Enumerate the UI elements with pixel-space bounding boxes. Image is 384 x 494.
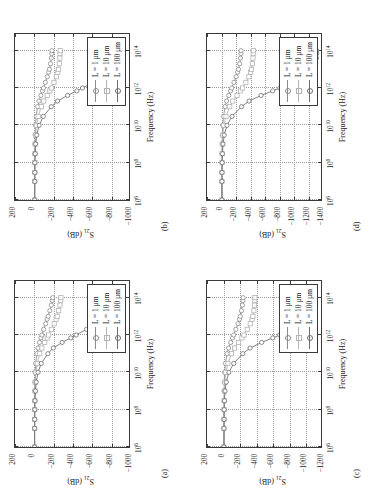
x-tick-label: 1010 xyxy=(326,367,336,379)
data-point-marker xyxy=(245,327,249,331)
chart-panel-a: L = 1 µmL = 10 µmL = 100 µm1061081010101… xyxy=(0,247,192,494)
legend-label: L = 1 µm xyxy=(91,296,100,324)
legend-marker-icon xyxy=(112,327,123,349)
data-point-marker xyxy=(36,114,40,118)
x-tick-label: 106 xyxy=(326,443,336,453)
data-point-marker xyxy=(42,99,46,103)
data-point-marker xyxy=(228,105,232,109)
data-point-marker xyxy=(238,56,242,60)
y-tick-label: 200 xyxy=(202,454,209,488)
x-axis-label: Frequency (Hz) xyxy=(338,33,347,201)
data-point-marker xyxy=(42,327,46,331)
data-point-marker xyxy=(40,333,44,337)
y-axis-label-unit: (dB) xyxy=(67,477,84,486)
data-point-marker xyxy=(230,114,234,118)
x-tick-label: 1014 xyxy=(134,292,144,304)
data-point-marker xyxy=(241,352,245,356)
data-point-marker xyxy=(52,322,56,326)
data-point-marker xyxy=(229,340,233,344)
legend-item: L = 100 µm xyxy=(304,289,315,349)
data-point-marker xyxy=(234,75,238,79)
y-tick-label: −1200 xyxy=(318,454,325,488)
data-point-marker xyxy=(35,361,39,365)
data-point-marker xyxy=(222,133,226,137)
data-point-marker xyxy=(235,93,239,97)
y-tick-label: −800 xyxy=(285,454,292,488)
chart-panel-b: L = 1 µmL = 10 µmL = 100 µm1061081010101… xyxy=(0,0,192,247)
data-point-marker xyxy=(33,161,37,165)
legend-label: L = 100 µm xyxy=(113,42,122,77)
data-point-marker xyxy=(220,152,224,156)
data-point-marker xyxy=(39,361,43,365)
y-tick-label: −1000 xyxy=(126,454,133,488)
data-point-marker xyxy=(41,86,45,90)
x-tick-label: 106 xyxy=(134,196,144,206)
y-tick-label: −200 xyxy=(49,207,56,241)
legend-marker-icon xyxy=(112,80,123,102)
panel-label-b: (b) xyxy=(160,221,169,231)
legend-item: L = 100 µm xyxy=(112,289,123,349)
legend-marker-icon xyxy=(90,327,101,349)
data-point-marker xyxy=(251,56,255,60)
data-point-marker xyxy=(240,303,244,307)
data-point-marker xyxy=(237,340,241,344)
y-tick-label: 0 xyxy=(217,207,224,241)
data-point-marker xyxy=(236,67,240,71)
legend-item: L = 10 µm xyxy=(101,42,112,102)
data-point-marker xyxy=(259,93,263,97)
data-point-marker xyxy=(33,179,37,183)
x-tick-label: 1012 xyxy=(134,83,144,95)
x-axis-label: Frequency (Hz) xyxy=(146,280,155,448)
y-axis-label-subscript: 21 xyxy=(276,475,282,481)
data-point-marker xyxy=(222,399,226,403)
data-point-marker xyxy=(225,123,229,127)
data-point-marker xyxy=(229,352,233,356)
plot-area-b: L = 1 µmL = 10 µmL = 100 µm xyxy=(14,33,130,201)
x-tick-label: 1010 xyxy=(326,120,336,132)
y-tick-label: −800 xyxy=(107,207,114,241)
data-point-marker xyxy=(58,56,62,60)
data-point-marker xyxy=(46,352,50,356)
data-point-marker xyxy=(36,370,40,374)
data-point-marker xyxy=(227,370,231,374)
chart-panel-c: L = 1 µmL = 10 µmL = 100 µm1061081010101… xyxy=(192,247,384,494)
data-point-marker xyxy=(37,99,41,103)
panel-label-d: (d) xyxy=(352,221,361,231)
data-point-marker xyxy=(224,380,228,384)
data-point-marker xyxy=(69,336,73,340)
data-point-marker xyxy=(33,417,37,421)
x-tick-label: 1012 xyxy=(326,83,336,95)
data-point-marker xyxy=(34,142,38,146)
panel-label-a: (a) xyxy=(160,469,169,478)
data-point-marker xyxy=(234,327,238,331)
data-point-marker xyxy=(33,399,37,403)
legend-d: L = 1 µmL = 10 µmL = 100 µm xyxy=(279,37,318,106)
x-tick-label: 1014 xyxy=(326,45,336,57)
data-point-marker xyxy=(239,309,243,313)
data-point-marker xyxy=(55,99,59,103)
y-axis-label-unit: (dB) xyxy=(259,230,276,239)
data-point-marker xyxy=(238,62,242,66)
y-axis-label-subscript: 21 xyxy=(84,228,90,234)
data-point-marker xyxy=(45,75,49,79)
chart-panel-d: L = 1 µmL = 10 µmL = 100 µm1061081010101… xyxy=(192,0,384,247)
y-tick-label: −1000 xyxy=(126,207,133,241)
legend-marker-icon xyxy=(293,80,304,102)
y-axis-label-symbol: S xyxy=(282,477,286,486)
data-point-marker xyxy=(231,99,235,103)
data-point-marker xyxy=(253,296,257,300)
data-point-marker xyxy=(58,303,62,307)
y-tick-label: −200 xyxy=(231,207,238,241)
data-point-marker xyxy=(37,123,41,127)
data-point-marker xyxy=(80,86,84,90)
x-axis-label: Frequency (Hz) xyxy=(146,33,155,201)
y-tick-label: −1000 xyxy=(302,454,309,488)
data-point-marker xyxy=(57,309,61,313)
plot-area-d: L = 1 µmL = 10 µmL = 100 µm xyxy=(206,33,322,201)
legend-item: L = 100 µm xyxy=(112,42,123,102)
figure-root: L = 1 µmL = 10 µmL = 100 µm1061081010101… xyxy=(0,0,384,494)
y-axis-label-symbol: S xyxy=(282,230,286,239)
x-tick-label: 1012 xyxy=(134,330,144,342)
y-tick-label: −400 xyxy=(246,207,253,241)
legend-item: L = 1 µm xyxy=(90,289,101,349)
